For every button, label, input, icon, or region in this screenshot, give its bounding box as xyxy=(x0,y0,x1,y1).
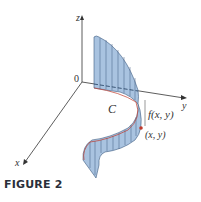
point-label: (x, y) xyxy=(145,129,166,140)
figure-diagram xyxy=(0,0,201,202)
height-label: f(x, y) xyxy=(148,108,174,120)
figure-caption: FIGURE 2 xyxy=(4,178,63,191)
x-axis xyxy=(25,82,82,162)
curve-label: C xyxy=(108,102,116,117)
z-arrow-icon xyxy=(80,15,84,20)
point-marker xyxy=(139,126,143,130)
y-axis-label: y xyxy=(182,100,186,111)
surface-upper xyxy=(94,36,139,104)
x-axis-label: x xyxy=(15,157,19,168)
z-axis-label: z xyxy=(76,12,80,23)
x-arrow-icon xyxy=(23,159,28,165)
origin-label: 0 xyxy=(74,73,79,84)
